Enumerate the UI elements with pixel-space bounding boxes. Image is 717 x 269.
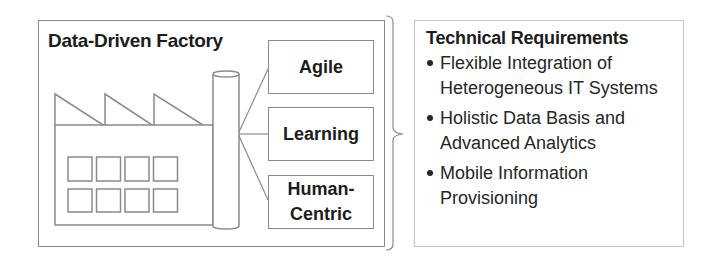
requirement-text: Mobile Information Provisioning bbox=[440, 163, 588, 208]
requirement-item: Holistic Data Basis and Advanced Analyti… bbox=[426, 106, 680, 156]
bullet-icon bbox=[427, 60, 433, 66]
characteristic-label: Human- Centric bbox=[288, 177, 355, 227]
factory-title: Data-Driven Factory bbox=[48, 30, 223, 52]
characteristic-box-human-centric: Human- Centric bbox=[268, 175, 374, 229]
characteristic-label: Agile bbox=[299, 56, 343, 78]
characteristic-box-learning: Learning bbox=[268, 107, 374, 161]
characteristic-box-agile: Agile bbox=[268, 40, 374, 94]
characteristic-label: Learning bbox=[283, 123, 359, 145]
requirement-text: Flexible Integration of Heterogeneous IT… bbox=[440, 53, 658, 98]
bracket bbox=[386, 16, 403, 250]
requirements-list: Flexible Integration of Heterogeneous IT… bbox=[426, 51, 683, 211]
requirements-title: Technical Requirements bbox=[426, 26, 683, 50]
requirement-item: Flexible Integration of Heterogeneous IT… bbox=[426, 51, 680, 101]
technical-requirements-panel: Technical Requirements Flexible Integrat… bbox=[414, 20, 684, 247]
bullet-icon bbox=[427, 170, 433, 176]
requirement-text: Holistic Data Basis and Advanced Analyti… bbox=[440, 108, 625, 153]
bullet-icon bbox=[427, 115, 433, 121]
requirement-item: Mobile Information Provisioning bbox=[426, 161, 680, 211]
